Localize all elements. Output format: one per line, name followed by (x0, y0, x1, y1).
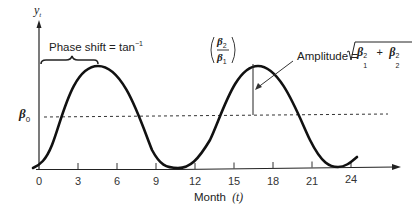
amplitude-label: Amplitude = (297, 50, 358, 62)
x-tick-label-6: 6 (114, 175, 120, 187)
x-tick-label-3: 3 (75, 175, 81, 187)
phase-shift-brace (41, 56, 98, 64)
x-tick-label-24: 24 (345, 173, 357, 185)
phase-shift-numerator: β2 (217, 35, 227, 49)
x-tick-label-0: 0 (36, 175, 42, 187)
baseline-label: β0 (19, 106, 30, 124)
x-axis-right (178, 167, 396, 170)
right-paren-icon (232, 37, 235, 63)
x-axis-arrow-icon (392, 164, 401, 170)
x-tick-label-18: 18 (267, 175, 279, 187)
x-axis-title: Month (t) (194, 191, 243, 203)
x-tick-label-15: 15 (228, 175, 240, 187)
x-tick-label-9: 9 (153, 175, 159, 187)
y-axis-arrow-icon (37, 20, 42, 28)
phase-shift-denominator: β1 (217, 51, 227, 65)
x-tick-label-12: 12 (189, 175, 201, 187)
phase-shift-label: Phase shift = tan−1 (49, 40, 143, 53)
amplitude-pointer (257, 61, 293, 88)
baseline-beta0 (44, 114, 388, 117)
x-tick-label-21: 21 (306, 175, 318, 187)
amplitude-formula: β21 + β22 (357, 45, 402, 60)
y-axis-label: yt (34, 3, 41, 19)
left-paren-icon (211, 37, 214, 63)
seasonal-diagram: yt β0 Phase shift = tan−1 β2 β1 Amplitud… (0, 0, 418, 211)
amplitude-arrow-icon (255, 83, 262, 90)
